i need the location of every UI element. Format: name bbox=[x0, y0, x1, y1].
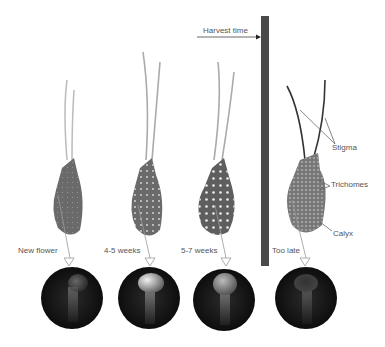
stage-label-too-late: Too late bbox=[272, 246, 301, 255]
stigma-label: Stigma bbox=[332, 143, 357, 152]
harvest-time-label: Harvest time bbox=[203, 26, 248, 35]
calyx-label: Calyx bbox=[333, 229, 353, 238]
stage-label-5-7-weeks: 5-7 weeks bbox=[181, 246, 217, 255]
stage-5-7-weeks bbox=[193, 62, 255, 331]
stage-4-5-weeks bbox=[118, 52, 180, 329]
arrowhead-icon bbox=[256, 35, 261, 40]
stage-new-flower bbox=[41, 80, 103, 329]
harvest-diagram: Harvest time New flower 4-5 weeks bbox=[0, 0, 385, 347]
stage-label-new-flower: New flower bbox=[18, 246, 58, 255]
harvest-bar bbox=[261, 16, 269, 266]
trichomes-label: Trichomes bbox=[331, 180, 368, 189]
stage-too-late bbox=[275, 80, 337, 329]
stage-label-4-5-weeks: 4-5 weeks bbox=[104, 246, 140, 255]
